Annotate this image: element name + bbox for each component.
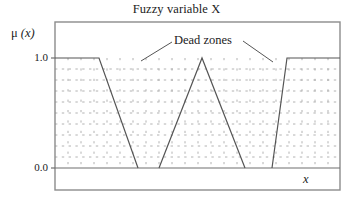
membership-set-right	[272, 58, 340, 168]
figure-canvas: Fuzzy variable X μ (x) 1.0 0.0 x Dead zo…	[0, 0, 353, 203]
leader-line-right	[243, 41, 273, 62]
grid-horizontal	[55, 69, 340, 157]
plot-area	[0, 0, 353, 203]
plot-frame	[55, 22, 340, 190]
leader-line-left	[141, 42, 172, 61]
dead-zones-leader-lines	[141, 41, 273, 62]
grid-lines	[55, 58, 340, 168]
